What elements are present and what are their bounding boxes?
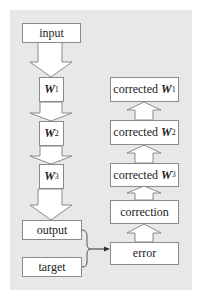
output-box: output bbox=[22, 220, 82, 240]
target-label: target bbox=[38, 260, 65, 275]
weight-name: W bbox=[161, 82, 172, 97]
arrow-down-icon bbox=[30, 102, 72, 121]
arrow-up-icon bbox=[127, 102, 161, 120]
arrow-down-icon bbox=[30, 189, 72, 220]
correction-box: correction bbox=[110, 200, 179, 224]
weight-name: W bbox=[44, 169, 55, 184]
weight-name: W bbox=[44, 126, 55, 141]
corrected-weight-box-2: corrected W2 bbox=[110, 120, 179, 145]
corrected-prefix: corrected bbox=[113, 168, 161, 183]
arrow-up-icon bbox=[127, 186, 161, 200]
corrected-weight-box-1: corrected W1 bbox=[110, 77, 179, 102]
arrow-down-icon bbox=[30, 42, 72, 77]
weight-box-1: W1 bbox=[39, 77, 64, 102]
weight-name: W bbox=[161, 125, 172, 140]
brace-icon bbox=[82, 230, 91, 267]
input-label: input bbox=[39, 26, 64, 41]
arrow-up-icon bbox=[127, 145, 161, 163]
weight-box-2: W2 bbox=[39, 121, 64, 146]
weight-name: W bbox=[44, 82, 55, 97]
corrected-prefix: corrected bbox=[113, 125, 161, 140]
weight-name: W bbox=[161, 168, 172, 183]
error-box: error bbox=[110, 242, 179, 265]
output-label: output bbox=[37, 223, 68, 238]
correction-label: correction bbox=[120, 205, 169, 220]
error-label: error bbox=[133, 246, 156, 261]
arrow-up-icon bbox=[127, 224, 161, 242]
input-box: input bbox=[22, 23, 81, 43]
arrow-down-icon bbox=[30, 146, 72, 164]
corrected-weight-box-3: corrected W3 bbox=[110, 163, 179, 187]
corrected-prefix: corrected bbox=[113, 82, 161, 97]
target-box: target bbox=[22, 257, 82, 277]
weight-box-3: W3 bbox=[39, 164, 64, 189]
